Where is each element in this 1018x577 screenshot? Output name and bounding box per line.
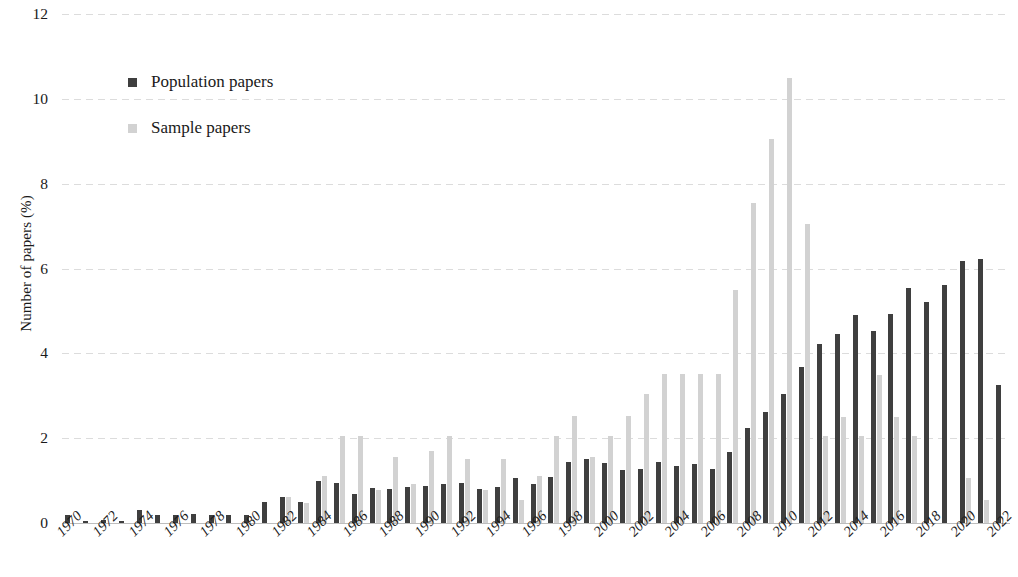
bar-population bbox=[960, 261, 965, 523]
x-tick-slot: 1972 bbox=[98, 524, 116, 577]
bar-sample bbox=[411, 484, 416, 523]
bar-sample bbox=[769, 139, 774, 523]
x-tick-slot: 2012 bbox=[813, 524, 831, 577]
bar-group bbox=[796, 14, 814, 523]
bar-group bbox=[813, 14, 831, 523]
x-tick-slot: 1978 bbox=[205, 524, 223, 577]
bar-sample bbox=[626, 416, 631, 523]
bar-group bbox=[831, 14, 849, 523]
legend-swatch-icon bbox=[128, 124, 137, 133]
bar-population bbox=[906, 288, 911, 523]
bar-group bbox=[563, 14, 581, 523]
x-tick-slot: 1998 bbox=[563, 524, 581, 577]
bar-sample bbox=[662, 374, 667, 523]
bar-group bbox=[509, 14, 527, 523]
bar-sample bbox=[554, 436, 559, 523]
bar-group bbox=[277, 14, 295, 523]
bar-population bbox=[727, 452, 732, 523]
bar-population bbox=[799, 367, 804, 523]
bar-sample bbox=[841, 417, 846, 523]
bar-sample bbox=[340, 436, 345, 523]
x-tick-slot: 1994 bbox=[491, 524, 509, 577]
bar-population bbox=[692, 464, 697, 523]
bar-group bbox=[992, 14, 1010, 523]
bar-group bbox=[742, 14, 760, 523]
bar-sample bbox=[716, 374, 721, 523]
bar-group bbox=[527, 14, 545, 523]
x-tick-slot: 2006 bbox=[706, 524, 724, 577]
x-tick-slot: 2020 bbox=[957, 524, 975, 577]
bar-sample bbox=[733, 290, 738, 523]
bar-population bbox=[83, 521, 88, 523]
bar-group bbox=[473, 14, 491, 523]
x-tick-slot: 2002 bbox=[635, 524, 653, 577]
bar-population bbox=[942, 285, 947, 523]
bar-group bbox=[491, 14, 509, 523]
bar-group bbox=[724, 14, 742, 523]
chart-legend: Population papersSample papers bbox=[128, 72, 273, 164]
bar-group bbox=[867, 14, 885, 523]
x-tick-slot: 1990 bbox=[420, 524, 438, 577]
y-tick-label: 12 bbox=[8, 5, 48, 23]
bar-group bbox=[438, 14, 456, 523]
bar-group bbox=[903, 14, 921, 523]
x-axis-ticks: 1970197219741976197819801982198419861988… bbox=[62, 524, 1010, 577]
bar-group bbox=[366, 14, 384, 523]
bar-population bbox=[817, 344, 822, 523]
bar-group bbox=[670, 14, 688, 523]
bar-population bbox=[924, 302, 929, 523]
bar-population bbox=[620, 470, 625, 523]
bar-population bbox=[334, 483, 339, 523]
x-tick-slot: 1976 bbox=[169, 524, 187, 577]
bar-group bbox=[599, 14, 617, 523]
bar-sample bbox=[787, 78, 792, 523]
bar-population bbox=[745, 428, 750, 523]
bar-sample bbox=[912, 436, 917, 523]
y-tick-label: 0 bbox=[8, 514, 48, 532]
bar-population bbox=[119, 521, 124, 523]
bar-group bbox=[295, 14, 313, 523]
bar-group bbox=[885, 14, 903, 523]
bar-population bbox=[978, 259, 983, 523]
bar-sample bbox=[680, 374, 685, 523]
bar-population bbox=[871, 331, 876, 523]
legend-label: Population papers bbox=[151, 72, 273, 92]
x-tick-slot: 1970 bbox=[62, 524, 80, 577]
bar-group bbox=[98, 14, 116, 523]
x-tick-slot: 1980 bbox=[241, 524, 259, 577]
x-tick-slot: 1992 bbox=[456, 524, 474, 577]
x-tick-slot: 2018 bbox=[921, 524, 939, 577]
bar-group bbox=[80, 14, 98, 523]
x-tick-slot: 2004 bbox=[670, 524, 688, 577]
bar-group bbox=[652, 14, 670, 523]
x-tick-slot: 1986 bbox=[348, 524, 366, 577]
bar-sample bbox=[447, 436, 452, 523]
bar-group bbox=[957, 14, 975, 523]
bar-sample bbox=[877, 375, 882, 523]
bar-sample bbox=[984, 500, 989, 523]
bar-population bbox=[781, 394, 786, 523]
bar-chart: Number of papers (%) 024681012 197019721… bbox=[0, 0, 1018, 577]
legend-swatch-icon bbox=[128, 78, 137, 87]
bar-sample bbox=[519, 500, 524, 523]
x-tick-slot: 2000 bbox=[599, 524, 617, 577]
y-tick-label: 4 bbox=[8, 344, 48, 362]
bar-sample bbox=[805, 224, 810, 523]
bar-group bbox=[402, 14, 420, 523]
x-tick-slot: 2022 bbox=[992, 524, 1010, 577]
x-tick-slot: 2014 bbox=[849, 524, 867, 577]
x-tick-slot: 1974 bbox=[134, 524, 152, 577]
bar-sample bbox=[376, 490, 381, 523]
bar-group bbox=[312, 14, 330, 523]
bar-sample bbox=[698, 374, 703, 523]
bar-sample bbox=[590, 457, 595, 523]
bar-population bbox=[513, 478, 518, 523]
bar-sample bbox=[483, 490, 488, 523]
x-tick-slot: 1996 bbox=[527, 524, 545, 577]
bar-population bbox=[853, 315, 858, 523]
x-tick-slot: 1982 bbox=[277, 524, 295, 577]
bar-group bbox=[706, 14, 724, 523]
bar-population bbox=[548, 477, 553, 523]
y-tick-label: 6 bbox=[8, 260, 48, 278]
bar-group bbox=[939, 14, 957, 523]
